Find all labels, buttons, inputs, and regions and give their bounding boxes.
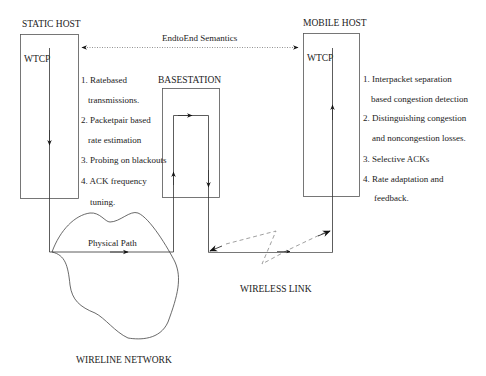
wireless-link-label: WIRELESS LINK xyxy=(240,284,312,294)
mobile-host-protocol: WTCP xyxy=(307,53,333,63)
end-to-end-arrow: EndtoEnd Semantics xyxy=(82,33,298,48)
static-feature-4: 4. ACK frequency xyxy=(81,176,147,186)
wireless-link: WIRELESS LINK xyxy=(209,48,333,294)
static-host-features: 1. Ratebased transmissions. 2. Packetpai… xyxy=(81,75,167,207)
mobile-host-label: MOBILE HOST xyxy=(303,18,367,28)
base-station-label: BASESTATION xyxy=(158,75,221,85)
mobile-feature-2-cont: and noncongestion losses. xyxy=(372,133,466,143)
mobile-feature-4: 4. Rate adaptation and xyxy=(363,174,444,184)
static-feature-3: 3. Probing on blackouts xyxy=(81,155,167,165)
static-host-protocol: WTCP xyxy=(24,54,50,64)
mobile-feature-1: 1. Interpacket separation xyxy=(363,74,452,84)
mobile-host-features: 1. Interpacket separation based congesti… xyxy=(363,74,468,203)
wireline-network-label: WIRELINE NETWORK xyxy=(76,355,172,365)
static-feature-1: 1. Ratebased xyxy=(81,75,127,85)
mobile-feature-3: 3. Selective ACKs xyxy=(363,154,430,164)
base-station: BASESTATION xyxy=(158,75,221,198)
mobile-host: MOBILE HOST WTCP xyxy=(303,18,367,197)
wtcp-diagram: STATIC HOST WTCP MOBILE HOST WTCP BASEST… xyxy=(0,0,486,376)
end-to-end-label: EndtoEnd Semantics xyxy=(162,33,238,43)
physical-path-label: Physical Path xyxy=(88,238,137,248)
static-feature-2-cont: rate estimation xyxy=(88,135,142,145)
mobile-feature-2: 2. Distinguishing congestion xyxy=(363,113,467,123)
static-feature-4-cont: tuning. xyxy=(90,197,115,207)
static-host: STATIC HOST WTCP xyxy=(21,19,81,199)
static-host-label: STATIC HOST xyxy=(22,19,81,29)
static-feature-2: 2. Packetpair based xyxy=(81,115,151,125)
mobile-feature-4-cont: feedback. xyxy=(374,193,409,203)
wireline-network-cloud xyxy=(52,213,179,339)
mobile-feature-1-cont: based congestion detection xyxy=(371,94,468,104)
static-feature-1-cont: transmissions. xyxy=(88,95,139,105)
base-station-box xyxy=(163,89,220,198)
